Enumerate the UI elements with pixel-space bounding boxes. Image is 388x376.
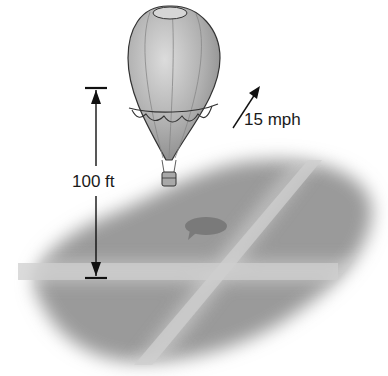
balloon-diagram: 100 ft 15 mph (0, 0, 388, 376)
hot-air-balloon (128, 6, 220, 186)
ground-field (0, 150, 388, 376)
wind-speed-label: 15 mph (244, 110, 301, 130)
diagram-canvas (0, 0, 388, 376)
height-label: 100 ft (72, 172, 115, 192)
basket (162, 172, 176, 186)
